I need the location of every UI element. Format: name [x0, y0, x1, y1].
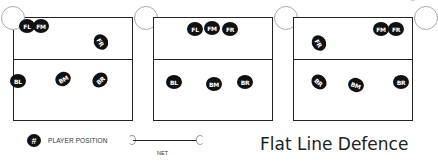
diagram-title: Flat Line Defence [260, 134, 408, 154]
net-legend-line-icon [133, 140, 197, 141]
court-1 [13, 17, 133, 121]
attack-line [154, 59, 272, 60]
net-cap-right-icon [196, 135, 204, 145]
player-marker-bl: BL [10, 74, 26, 88]
player-marker-bl: BL [166, 75, 182, 89]
player-marker-br: BR [393, 75, 409, 89]
legend-net-label: NET [157, 150, 168, 156]
attack-line [294, 59, 412, 60]
player-position-icon: # [27, 134, 41, 147]
attack-line [14, 59, 132, 60]
player-marker-bm: BM [206, 77, 222, 91]
player-marker-fm: FM [373, 22, 389, 36]
player-marker-fm: FM [204, 21, 220, 35]
player-marker-br: BR [237, 75, 253, 89]
player-marker-fm: FM [33, 19, 49, 33]
legend-player-label: PLAYER POSITION [48, 137, 108, 144]
net-post-icon [414, 6, 438, 30]
corner-text: S [410, 0, 415, 3]
player-marker-fr: FR [222, 22, 238, 36]
player-marker-fr: FR [388, 22, 404, 36]
player-marker-fl: FL [187, 22, 203, 36]
